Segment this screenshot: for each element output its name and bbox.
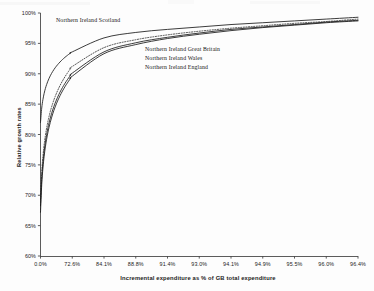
x-tick-label: 88.8%: [128, 261, 144, 267]
y-tick-label: 90%: [4, 71, 36, 77]
x-tick-label: 94.9%: [255, 261, 271, 267]
line-chart-canvas: [0, 0, 374, 291]
chart-screenshot: 60%65%70%75%80%85%90%95%100% 0.0%72.6%84…: [0, 0, 374, 291]
y-tick-label: 100%: [4, 10, 36, 16]
x-tick-label: 0.0%: [34, 261, 47, 267]
y-axis-title: Relative growth rates: [16, 92, 22, 182]
y-tick-label: 95%: [4, 40, 36, 46]
y-tick-label: 70%: [4, 192, 36, 198]
x-tick-label: 93.0%: [191, 261, 207, 267]
x-tick-label: 94.1%: [223, 261, 239, 267]
series-annotation-great-britain: Northern Ireland Great Britain: [145, 46, 220, 52]
series-annotation-england: Northern Ireland England: [145, 64, 208, 70]
x-axis-title: Incremental expenditure as % of GB total…: [40, 275, 356, 281]
y-tick-label: 60%: [4, 253, 36, 259]
series-annotation-wales: Northern Ireland Wales: [145, 55, 202, 61]
x-tick-label: 72.6%: [64, 261, 80, 267]
x-tick-label: 96.0%: [318, 261, 334, 267]
x-tick-label: 91.4%: [160, 261, 176, 267]
y-tick-label: 65%: [4, 223, 36, 229]
x-tick-label: 95.5%: [287, 261, 303, 267]
x-tick-label: 84.1%: [96, 261, 112, 267]
series-annotation-scotland: Northern Ireland Scotland: [56, 17, 120, 23]
x-tick-label: 96.4%: [350, 261, 366, 267]
